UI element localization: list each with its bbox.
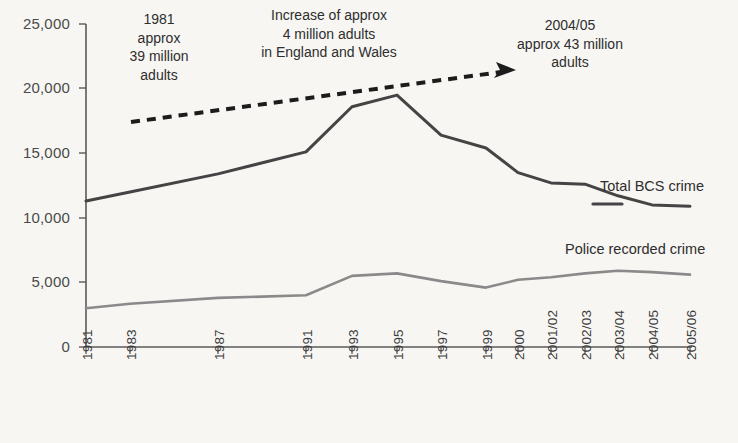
- ytick-label-5000: 5,000: [0, 273, 70, 290]
- xtick-label-1993: 1993: [346, 329, 361, 360]
- xtick-label-1991: 1991: [300, 329, 315, 360]
- police-recorded-crime-line: [86, 271, 690, 308]
- xtick-label-1999: 1999: [480, 329, 495, 360]
- x-axis-ticks: [86, 347, 690, 354]
- xtick-label-2003-04: 2003/04: [612, 310, 627, 360]
- crime-trend-chart: 25,000 20,000 15,000 10,000 5,000 0 1981…: [0, 0, 738, 443]
- xtick-label-2002-03: 2002/03: [579, 310, 594, 360]
- ytick-label-10000: 10,000: [0, 209, 70, 226]
- xtick-label-1981: 1981: [80, 329, 95, 360]
- xtick-label-1983: 1983: [124, 329, 139, 360]
- right-annotation: 2004/05 approx 43 million adults: [480, 16, 660, 72]
- ytick-label-15000: 15,000: [0, 144, 70, 161]
- legend-label-total-bcs-crime: Total BCS crime: [600, 178, 704, 194]
- xtick-label-2004-05: 2004/05: [646, 310, 661, 360]
- xtick-label-2005-06: 2005/06: [684, 310, 699, 360]
- ytick-label-20000: 20,000: [0, 79, 70, 96]
- xtick-label-1997: 1997: [435, 329, 450, 360]
- legend-label-police-recorded-crime: Police recorded crime: [565, 241, 705, 257]
- xtick-label-2001-02: 2001/02: [545, 310, 560, 360]
- ytick-label-0: 0: [0, 338, 70, 355]
- xtick-label-1995: 1995: [391, 329, 406, 360]
- xtick-label-1987: 1987: [212, 329, 227, 360]
- y-axis-ticks: [79, 24, 86, 347]
- ytick-label-25000: 25,000: [0, 15, 70, 32]
- left-annotation: 1981 approx 39 million adults: [104, 10, 214, 84]
- xtick-label-2000: 2000: [512, 329, 527, 360]
- center-annotation: Increase of approx 4 million adults in E…: [234, 6, 424, 62]
